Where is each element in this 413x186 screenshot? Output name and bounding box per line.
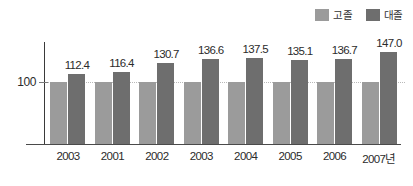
bar-college[interactable]: 136.6	[202, 59, 219, 145]
x-axis-tick-label: 2003	[183, 150, 219, 166]
bar-group: 147.0	[362, 44, 397, 145]
y-axis-label-100: 100	[17, 75, 36, 89]
bar-highschool[interactable]	[317, 82, 334, 145]
bar-group: 136.7	[317, 44, 352, 145]
legend-label-highschool: 고졸	[333, 9, 352, 21]
bar-value-label: 135.1	[287, 45, 312, 57]
bar-value-label: 112.4	[65, 59, 89, 71]
bar-college[interactable]: 130.7	[157, 63, 174, 146]
bar-college[interactable]: 147.0	[380, 52, 397, 145]
bar-group: 137.5	[228, 44, 263, 145]
bar-chart: 고졸 대졸 100 112.4116.4130.7136.6137.5135.1…	[0, 0, 413, 186]
x-axis-tick-label: 2001	[94, 150, 130, 166]
bar-value-label: 137.5	[243, 43, 268, 55]
bar-highschool[interactable]	[139, 82, 156, 145]
bar-college[interactable]: 116.4	[113, 72, 130, 145]
legend-label-college: 대졸	[384, 9, 403, 21]
plot-area: 100 112.4116.4130.7136.6137.5135.1136.71…	[44, 44, 401, 145]
bar-value-label: 136.6	[198, 44, 223, 56]
bar-group: 112.4	[50, 44, 85, 145]
bar-highschool[interactable]	[50, 82, 67, 145]
bar-highschool[interactable]	[95, 82, 112, 145]
x-axis-tick-label: 2005	[272, 150, 308, 166]
bar-highschool[interactable]	[228, 82, 245, 145]
bar-highschool[interactable]	[362, 82, 379, 145]
x-axis-tick-label: 2003	[50, 150, 86, 166]
bar-value-label: 147.0	[376, 37, 401, 49]
bar-highschool[interactable]	[273, 82, 290, 145]
chart-legend: 고졸 대졸	[315, 9, 403, 21]
bar-group: 136.6	[184, 44, 219, 145]
x-axis-labels: 20032001200220032004200520062007년	[44, 150, 401, 166]
bar-group: 130.7	[139, 44, 174, 145]
bar-highschool[interactable]	[184, 82, 201, 145]
bar-college[interactable]: 136.7	[335, 59, 352, 145]
bar-groups: 112.4116.4130.7136.6137.5135.1136.7147.0	[44, 44, 401, 145]
bar-college[interactable]: 135.1	[291, 60, 308, 145]
x-axis-tick-label: 2006	[317, 150, 353, 166]
legend-swatch-highschool	[315, 9, 329, 21]
bar-college[interactable]: 112.4	[68, 74, 85, 145]
bar-value-label: 136.7	[332, 44, 357, 56]
x-axis-tick-label: 2002	[139, 150, 175, 166]
legend-swatch-college	[366, 9, 380, 21]
x-axis-tick-label: 2007년	[361, 150, 397, 166]
bar-value-label: 116.4	[109, 57, 133, 69]
legend-item-highschool: 고졸	[315, 9, 352, 21]
x-axis-baseline	[26, 144, 401, 146]
x-axis-tick-label: 2004	[228, 150, 264, 166]
bar-group: 135.1	[273, 44, 308, 145]
legend-item-college: 대졸	[366, 9, 403, 21]
bar-value-label: 130.7	[153, 48, 178, 60]
bar-group: 116.4	[95, 44, 130, 145]
bar-college[interactable]: 137.5	[246, 58, 263, 145]
